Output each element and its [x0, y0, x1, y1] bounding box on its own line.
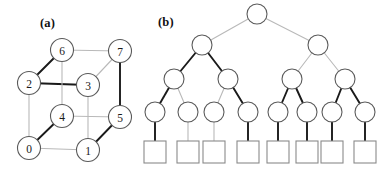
node-l2a — [164, 69, 184, 89]
node-l3h — [355, 102, 375, 122]
tree-nodes-group — [144, 4, 376, 163]
leaf-node-leaf8 — [354, 141, 376, 163]
node-l3a — [145, 102, 165, 122]
node-l3b — [178, 102, 198, 122]
node-r — [247, 4, 267, 24]
figure-svg: 01234567 — [0, 0, 391, 171]
node-l2b — [218, 69, 238, 89]
node-label-4: 4 — [59, 111, 65, 123]
tree-edges-group — [155, 14, 365, 152]
node-l3d — [238, 102, 258, 122]
node-l3c — [204, 102, 224, 122]
node-l2d — [335, 69, 355, 89]
panel-label-a: (a) — [40, 16, 55, 31]
node-label-6: 6 — [59, 45, 65, 57]
node-l1a — [192, 35, 212, 55]
node-l2c — [282, 69, 302, 89]
node-label-3: 3 — [85, 80, 91, 92]
node-l3f — [297, 102, 317, 122]
cube-edges-group — [29, 50, 120, 150]
node-label-7: 7 — [117, 46, 123, 58]
leaf-node-leaf4 — [237, 141, 259, 163]
leaf-node-leaf5 — [267, 141, 289, 163]
node-l3g — [322, 102, 342, 122]
leaf-node-leaf1 — [144, 141, 166, 163]
node-label-5: 5 — [117, 112, 123, 124]
leaf-node-leaf2 — [177, 141, 199, 163]
leaf-node-leaf7 — [321, 141, 343, 163]
panel-label-b: (b) — [158, 15, 174, 30]
node-label-2: 2 — [26, 78, 32, 90]
node-l1b — [308, 35, 328, 55]
leaf-node-leaf6 — [296, 141, 318, 163]
node-l3e — [268, 102, 288, 122]
figure-canvas: 01234567 (a) (b) — [0, 0, 391, 171]
node-label-1: 1 — [85, 145, 91, 157]
cube-nodes-group: 01234567 — [18, 39, 132, 162]
leaf-node-leaf3 — [203, 141, 225, 163]
node-label-0: 0 — [26, 143, 32, 155]
